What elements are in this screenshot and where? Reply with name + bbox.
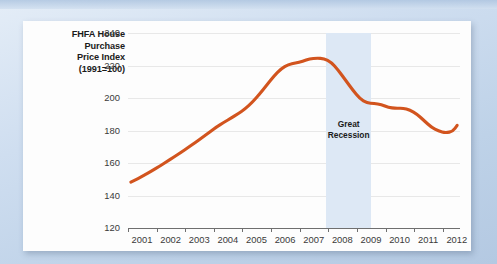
x-tick-mark [271,228,272,232]
recession-label-line-2: Recession [312,130,385,141]
y-tick-label: 140 [80,190,120,201]
chart-panel: FHFA House Purchase Price Index (1991=10… [23,21,471,251]
x-tick-mark [443,228,444,232]
series-path [131,58,457,182]
y-axis-title-line-2: Purchase [31,41,125,53]
x-axis-line [128,228,460,229]
x-tick-mark [157,228,158,232]
x-tick-mark [357,228,358,232]
y-tick-label: 220 [80,60,120,71]
x-tick-mark [328,228,329,232]
x-tick-mark [128,228,129,232]
line-series-fhfa-index [128,33,460,229]
y-tick-label: 120 [80,222,120,233]
plot-area: 120140160180200220240 200120022003200420… [128,33,460,229]
x-tick-mark [414,228,415,232]
x-tick-label: 2012 [437,234,477,245]
y-tick-label: 160 [80,157,120,168]
y-tick-label: 200 [80,92,120,103]
x-tick-mark [242,228,243,232]
y-tick-label: 240 [80,27,120,38]
page-top-band [0,0,497,9]
x-tick-mark [300,228,301,232]
x-tick-mark [386,228,387,232]
y-tick-label: 180 [80,125,120,136]
recession-label-line-1: Great [312,119,385,130]
recession-annotation-label: GreatRecession [312,119,385,140]
x-tick-mark [214,228,215,232]
x-tick-mark [185,228,186,232]
